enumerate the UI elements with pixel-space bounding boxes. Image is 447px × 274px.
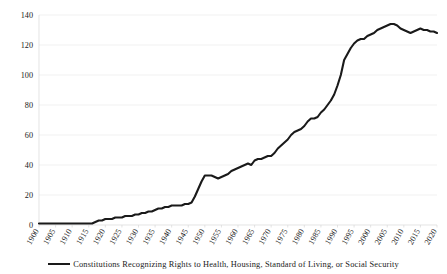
legend-line-swatch xyxy=(48,263,70,265)
x-axis-tick-label: 1985 xyxy=(307,228,323,247)
y-axis-tick-labels: 020406080100120140 xyxy=(21,11,33,230)
y-axis-tick-label: 80 xyxy=(25,101,33,110)
y-axis-tick-label: 100 xyxy=(21,71,33,80)
x-axis-tick-label: 1905 xyxy=(41,228,57,247)
x-axis-tick-label: 1975 xyxy=(274,228,290,247)
chart-plot-area: 020406080100120140 190019051910191519201… xyxy=(0,0,447,274)
gridlines-group xyxy=(39,15,437,228)
x-axis-tick-label: 2020 xyxy=(423,228,439,247)
x-axis-tick-label: 1990 xyxy=(323,228,339,247)
y-axis-tick-label: 120 xyxy=(21,41,33,50)
x-axis-tick-label: 1930 xyxy=(124,228,140,247)
y-axis-tick-label: 20 xyxy=(25,191,33,200)
y-axis-tick-label: 60 xyxy=(25,131,33,140)
x-axis-tick-label: 1920 xyxy=(91,228,107,247)
x-axis-tick-label: 2015 xyxy=(406,228,422,247)
x-axis-tick-label: 1955 xyxy=(207,228,223,247)
x-axis-tick-label: 2000 xyxy=(356,228,372,247)
x-axis-tick-label: 1995 xyxy=(340,228,356,247)
x-axis-tick-label: 1915 xyxy=(75,228,91,247)
x-axis-tick-label: 1960 xyxy=(224,228,240,247)
x-axis-tick-label: 2010 xyxy=(390,228,406,247)
y-axis-tick-label: 40 xyxy=(25,161,33,170)
legend-label: Constitutions Recognizing Rights to Heal… xyxy=(73,260,399,269)
chart-legend: Constitutions Recognizing Rights to Heal… xyxy=(0,256,447,272)
data-series-line xyxy=(39,24,437,224)
line-chart-figure: 020406080100120140 190019051910191519201… xyxy=(0,0,447,274)
x-axis-tick-label: 1945 xyxy=(174,228,190,247)
x-axis-tick-label: 1940 xyxy=(157,228,173,247)
x-axis-tick-label: 1970 xyxy=(257,228,273,247)
x-axis-tick-label: 1965 xyxy=(240,227,256,246)
x-axis-tick-label: 1900 xyxy=(25,228,41,247)
x-axis-tick-label: 1935 xyxy=(141,228,157,247)
y-axis-tick-label: 140 xyxy=(21,11,33,20)
x-axis-tick-label: 1950 xyxy=(191,228,207,247)
x-axis-tick-label: 1980 xyxy=(290,228,306,247)
x-axis-tick-label: 1925 xyxy=(108,228,124,247)
x-axis-tick-label: 1910 xyxy=(58,228,74,247)
x-axis-tick-labels: 1900190519101915192019251930193519401945… xyxy=(25,227,439,246)
x-axis-tick-label: 2005 xyxy=(373,228,389,247)
